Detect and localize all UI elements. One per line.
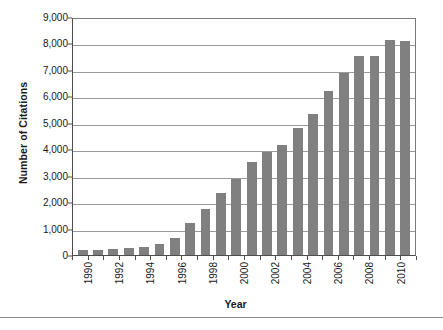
citations-bar-chart-figure: Number of Citations 01,0002,0003,0004,00… (0, 0, 443, 330)
x-axis-tick-mark (150, 256, 151, 260)
bar-slot (229, 19, 244, 255)
bar (308, 114, 318, 255)
bar-slot (336, 19, 351, 255)
bar-slot (121, 19, 136, 255)
x-axis-tick-label: 1998 (209, 262, 219, 284)
x-axis-tick-mark (103, 256, 104, 260)
x-axis-tick-mark (338, 256, 339, 260)
x-axis-tick-mark (228, 256, 229, 260)
bar (108, 249, 118, 255)
x-axis-tick-label: 2000 (240, 262, 250, 284)
plot-area (72, 18, 416, 256)
bar-slot (90, 19, 105, 255)
bar-slot (75, 19, 90, 255)
x-axis-tick-mark (181, 256, 182, 260)
bar-slot (290, 19, 305, 255)
y-axis-tick-label: 7,000 (43, 66, 68, 76)
bar-slot (259, 19, 274, 255)
bar-slot (351, 19, 366, 255)
x-axis-tick-mark (166, 256, 167, 260)
bar-slot (183, 19, 198, 255)
bar (277, 145, 287, 255)
y-axis-tick-label: 6,000 (43, 92, 68, 102)
x-axis-tick-mark (322, 256, 323, 260)
bar-slot (198, 19, 213, 255)
bar (354, 56, 364, 255)
x-axis-tick-labels: 1990199219941996199820002002200420062008… (72, 262, 416, 296)
x-axis-tick-label: 1994 (146, 262, 156, 284)
x-axis-tick-mark (135, 256, 136, 260)
bar (293, 128, 303, 255)
bar-slot (167, 19, 182, 255)
y-axis-tick-label: 4,000 (43, 145, 68, 155)
bar (385, 40, 395, 255)
y-axis-title-text: Number of Citations (17, 82, 29, 184)
bar (216, 193, 226, 255)
x-axis-tick-label: 2004 (303, 262, 313, 284)
bar (170, 238, 180, 255)
x-axis-title: Year (0, 298, 443, 310)
y-axis-tick-label: 3,000 (43, 172, 68, 182)
bar (262, 152, 272, 255)
bar-slot (367, 19, 382, 255)
bar (324, 91, 334, 255)
y-axis-tick-label: 5,000 (43, 119, 68, 129)
x-axis-tick-mark (307, 256, 308, 260)
bar-slot (398, 19, 413, 255)
x-axis-tick-mark (88, 256, 89, 260)
x-axis-tick-mark (385, 256, 386, 260)
bar (339, 73, 349, 255)
x-axis-tick-mark (260, 256, 261, 260)
y-axis-tick-label: 9,000 (43, 13, 68, 23)
bar (201, 209, 211, 255)
bar (247, 162, 257, 255)
x-axis-tick-mark (369, 256, 370, 260)
x-axis-tick-label: 2008 (365, 262, 375, 284)
x-axis-title-text: Year (224, 298, 246, 310)
x-axis-tick-mark (197, 256, 198, 260)
x-axis-tick-label: 1992 (115, 262, 125, 284)
bar-slot (275, 19, 290, 255)
bar-slot (106, 19, 121, 255)
bar-slot (152, 19, 167, 255)
bar-slot (213, 19, 228, 255)
x-axis-tick-label: 2010 (397, 262, 407, 284)
y-axis-tick-labels: 01,0002,0003,0004,0005,0006,0007,0008,00… (30, 18, 68, 256)
x-axis-tick-mark (213, 256, 214, 260)
bottom-divider (0, 317, 443, 318)
y-axis-tick-label: 1,000 (43, 225, 68, 235)
bar-slot (321, 19, 336, 255)
x-axis-tick-mark (353, 256, 354, 260)
bar (78, 250, 88, 255)
x-axis-tick-mark (400, 256, 401, 260)
bar (370, 56, 380, 255)
x-axis-tick-mark (291, 256, 292, 260)
x-axis-tick-mark (275, 256, 276, 260)
x-axis-tick-label: 1990 (84, 262, 94, 284)
x-axis-tick-label: 2006 (334, 262, 344, 284)
bar-slot (382, 19, 397, 255)
bar (400, 41, 410, 255)
bar-slot (136, 19, 151, 255)
bar (124, 248, 134, 255)
bar (155, 244, 165, 255)
bar (139, 247, 149, 255)
x-axis-tick-mark (416, 256, 417, 260)
x-axis-tick-label: 2002 (271, 262, 281, 284)
bar (185, 223, 195, 255)
bar (231, 179, 241, 255)
bar-slot (305, 19, 320, 255)
x-axis-tick-mark (119, 256, 120, 260)
y-axis-tick-label: 8,000 (43, 39, 68, 49)
x-axis-tick-label: 1996 (178, 262, 188, 284)
x-axis-tick-mark (244, 256, 245, 260)
y-axis-tick-label: 2,000 (43, 198, 68, 208)
bar (93, 250, 103, 255)
bar-slot (244, 19, 259, 255)
x-axis-tick-mark (72, 256, 73, 260)
bar-series (73, 19, 415, 255)
